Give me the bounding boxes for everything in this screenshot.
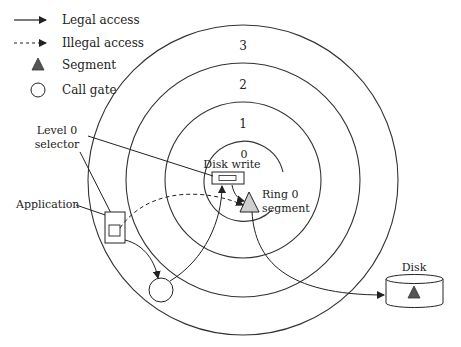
disk-label: Disk [402, 261, 427, 274]
disk-write-gate: Disk write [203, 158, 260, 184]
legal-access-arrow-to-disk [252, 212, 384, 295]
legend-item-illegal-access: Illegal access [14, 36, 144, 50]
illegal-access-arrow [120, 194, 243, 228]
ring0-segment-label-line1: Ring 0 [262, 188, 298, 201]
triangle-icon [32, 58, 44, 70]
call-gate-icon [149, 278, 173, 302]
level0-selector-label-line2: selector [35, 138, 80, 151]
ring-label-3: 3 [239, 39, 247, 53]
disk-write-label: Disk write [203, 158, 260, 171]
legal-access-arrow-gate-to-diskwrite [170, 186, 222, 281]
disk: Disk [386, 261, 443, 308]
application-box [105, 212, 125, 243]
protection-rings-diagram: Legal access Illegal access Segment Call… [0, 0, 461, 347]
legend-label: Call gate [62, 83, 117, 97]
circle-icon [31, 83, 45, 97]
legend-label: Segment [62, 58, 116, 72]
legal-access-arrow-to-gate [125, 240, 158, 278]
level0-selector-label-line1: Level 0 [37, 124, 78, 137]
ring-label-2: 2 [239, 78, 247, 92]
level0-selector-leader [88, 136, 213, 176]
ring-label-1: 1 [239, 117, 247, 131]
legend-item-call-gate: Call gate [31, 83, 117, 97]
legend-label: Legal access [62, 13, 140, 27]
legend-item-legal-access: Legal access [14, 13, 140, 27]
application-label: Application [15, 198, 79, 211]
legend-item-segment: Segment [32, 58, 116, 72]
legend-label: Illegal access [62, 36, 144, 50]
ring0-segment-label-line2: segment [262, 202, 310, 215]
legend: Legal access Illegal access Segment Call… [14, 13, 144, 97]
legal-access-arrow [232, 185, 244, 201]
ring0-segment-icon [240, 192, 259, 212]
